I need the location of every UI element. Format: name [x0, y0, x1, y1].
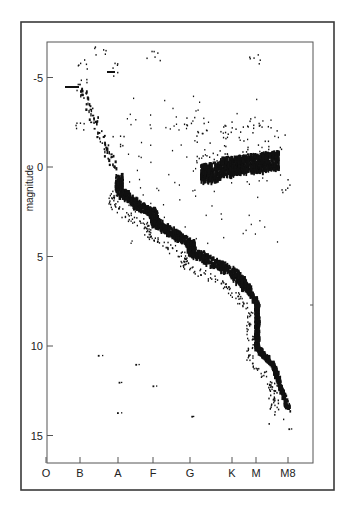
- x-tick-label: K: [228, 467, 236, 479]
- y-axis-title: magnitude: [24, 164, 35, 211]
- y-tick-label: 5: [37, 251, 43, 263]
- x-tick-label: M: [251, 467, 260, 479]
- x-tick-label: A: [114, 467, 122, 479]
- hr-diagram-chart: -5051015 OBAFGKMM8 magnitude: [0, 0, 353, 505]
- y-tick-label: 0: [37, 161, 43, 173]
- y-tick-label: 10: [31, 340, 43, 352]
- x-tick-label: O: [42, 467, 51, 479]
- y-tick-label: -5: [33, 72, 43, 84]
- x-tick-label: F: [150, 467, 157, 479]
- x-tick-label: G: [186, 467, 195, 479]
- y-tick-label: 15: [31, 430, 43, 442]
- x-tick-label: M8: [280, 467, 295, 479]
- x-tick-label: B: [76, 467, 83, 479]
